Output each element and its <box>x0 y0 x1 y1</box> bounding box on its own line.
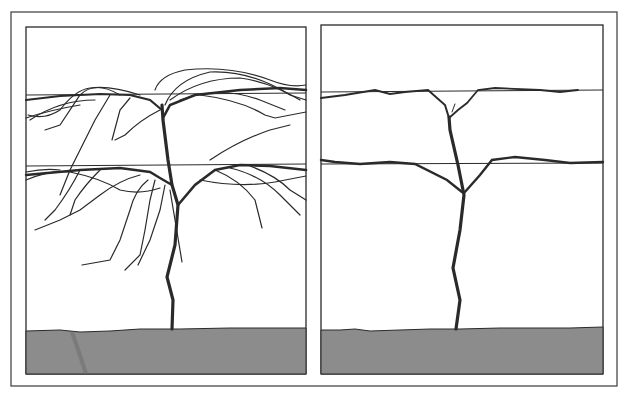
ground-left <box>26 328 306 374</box>
right-panel <box>321 25 603 374</box>
ground-right <box>321 327 603 374</box>
left-panel <box>26 27 306 374</box>
figure <box>0 0 627 395</box>
